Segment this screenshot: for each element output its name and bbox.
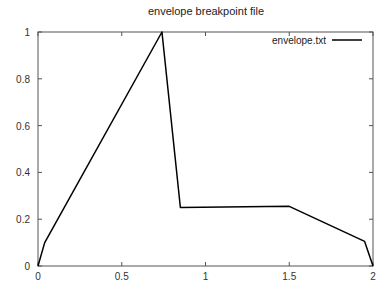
series-layer — [38, 32, 373, 266]
plot-frame — [38, 32, 373, 266]
y-tick-label: 0.4 — [16, 167, 30, 178]
x-tick-label: 0.5 — [115, 271, 129, 282]
x-tick-label: 2 — [370, 271, 376, 282]
x-tick-label: 1.5 — [282, 271, 296, 282]
y-tick-label: 0 — [24, 261, 30, 272]
legend: envelope.txt — [272, 35, 362, 46]
series-line-envelope-txt — [38, 32, 373, 266]
y-tick-label: 0.2 — [16, 214, 30, 225]
x-axis: 00.511.52 — [35, 32, 376, 282]
y-axis: 00.20.40.60.81 — [16, 27, 373, 272]
chart-title: envelope breakpoint file — [148, 5, 264, 17]
x-tick-label: 0 — [35, 271, 41, 282]
y-tick-label: 1 — [24, 27, 30, 38]
legend-label: envelope.txt — [272, 35, 326, 46]
y-tick-label: 0.6 — [16, 121, 30, 132]
x-tick-label: 1 — [203, 271, 209, 282]
y-tick-label: 0.8 — [16, 74, 30, 85]
chart: envelope breakpoint file 00.511.52 00.20… — [0, 0, 392, 293]
